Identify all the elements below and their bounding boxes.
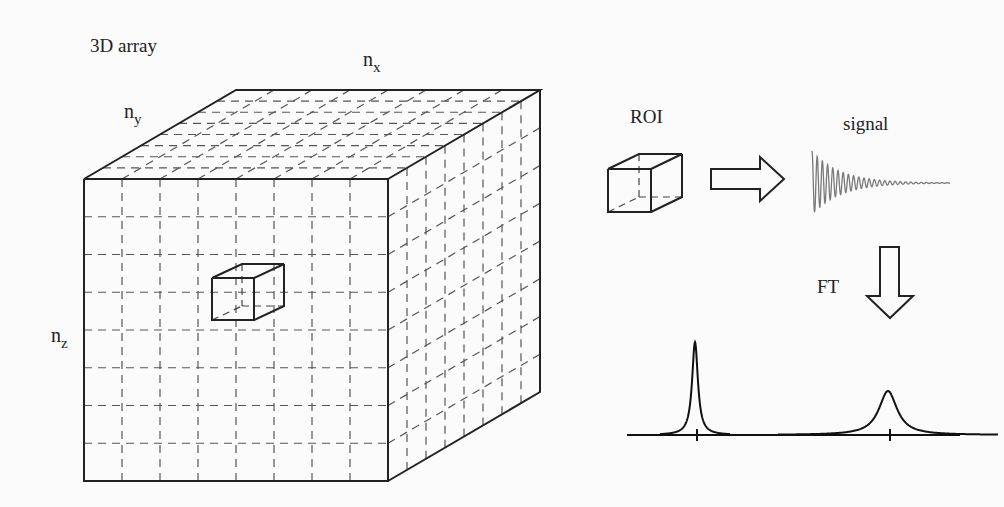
hidden-edge [212, 306, 242, 320]
cube-front [212, 278, 254, 320]
signal-decay-trace [812, 151, 950, 212]
arrow-right-icon [711, 157, 784, 201]
ny-label: ny [124, 100, 142, 127]
array-title: 3D array [90, 35, 157, 56]
hidden-edge [608, 197, 639, 212]
cube-side [651, 154, 682, 212]
nx-label: nx [363, 48, 381, 75]
cube-top [608, 154, 682, 169]
cube-top [212, 264, 284, 278]
ft-label: FT [817, 276, 840, 297]
arrow-down-icon [867, 247, 913, 318]
nz-label: nz [51, 324, 68, 351]
spectrum-plot [627, 342, 998, 441]
spectrum-peak [778, 391, 998, 435]
diagram-canvas: 3D array nx ny nz ROI signal FT [0, 0, 1004, 507]
diagram-svg: 3D array nx ny nz ROI signal FT [0, 0, 1004, 507]
roi-label: ROI [630, 106, 663, 127]
spectrum-peak [660, 342, 730, 434]
signal-label: signal [843, 113, 888, 134]
cube-front [608, 169, 651, 212]
array-grid-lines [84, 90, 540, 481]
roi-cube-icon [608, 154, 682, 212]
